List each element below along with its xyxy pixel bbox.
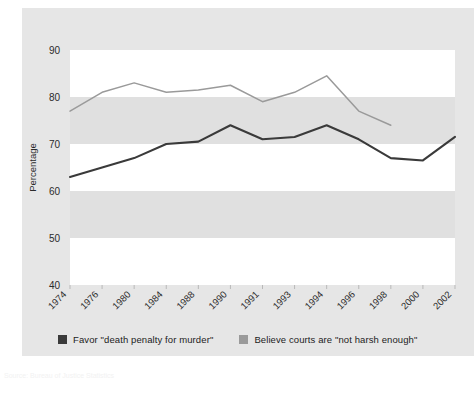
x-tick-label: 1976 [78,289,101,312]
legend-label-favor-death-penalty: Favor "death penalty for murder" [73,334,213,345]
x-axis-tick-labels: 1974197619801984198819901991199319941996… [46,285,455,311]
y-tick-label: 80 [49,92,61,103]
grid-band [70,191,455,238]
grid-band [70,97,455,144]
x-tick-label: 1974 [46,289,69,312]
x-tick-label: 1988 [174,289,197,312]
x-tick-label: 1998 [367,289,390,312]
x-tick-label: 1994 [302,289,325,312]
y-tick-label: 50 [49,233,61,244]
y-tick-label: 90 [49,45,61,56]
x-tick-label: 2002 [431,289,454,312]
x-tick-label: 1991 [238,289,261,312]
y-axis-title: Percentage [27,143,38,192]
grid-band [70,238,455,285]
y-tick-label: 70 [49,139,61,150]
legend-item-0[interactable]: Favor "death penalty for murder" [58,334,213,345]
legend-label-courts-not-harsh-enough: Believe courts are "not harsh enough" [254,334,417,345]
y-axis-tick-labels: 405060708090 [49,45,61,291]
x-tick-label: 1996 [334,289,357,312]
legend-swatch-favor-death-penalty [58,335,67,344]
x-tick-label: 1993 [270,289,293,312]
chart-legend: Favor "death penalty for murder" Believe… [58,331,458,347]
x-tick-label: 1980 [110,289,133,312]
figure-container: 405060708090Percentage197419761980198419… [0,0,474,393]
grid-band [70,144,455,191]
source-note: Source: Bureau of Justice Statistics [4,372,304,379]
grid-band [70,50,455,97]
y-tick-label: 60 [49,186,61,197]
x-tick-label: 1990 [206,289,229,312]
legend-item-1[interactable]: Believe courts are "not harsh enough" [239,334,417,345]
legend-swatch-courts-not-harsh-enough [239,335,248,344]
x-tick-label: 1984 [142,289,165,312]
x-tick-label: 2000 [399,289,422,312]
